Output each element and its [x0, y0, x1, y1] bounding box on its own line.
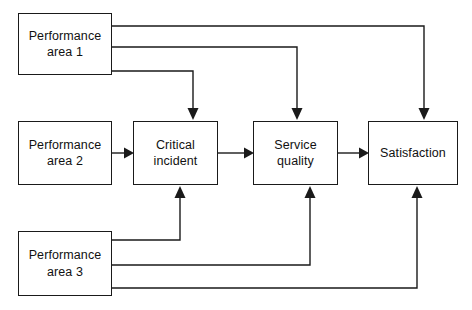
- node-performance-area-2[interactable]: Performance area 2: [18, 121, 112, 185]
- arrowhead-critical-incident-bottom: [175, 186, 186, 198]
- node-performance-area-3[interactable]: Performance area 3: [18, 231, 112, 296]
- edge-pa1-to-critical-incident: [112, 71, 193, 117]
- node-performance-area-1[interactable]: Performance area 1: [18, 13, 112, 75]
- arrowhead-satisfaction-bottom: [412, 186, 423, 198]
- arrowhead-critical-incident-top: [188, 108, 199, 120]
- node-label: Performance area 2: [26, 137, 105, 170]
- node-satisfaction[interactable]: Satisfaction: [368, 121, 458, 185]
- node-label: Performance area 3: [26, 247, 105, 280]
- edge-pa3-to-critical-incident: [112, 189, 180, 240]
- arrowhead-service-quality-top: [292, 108, 303, 120]
- node-label: Service quality: [271, 137, 319, 170]
- node-label: Critical incident: [151, 137, 201, 170]
- node-service-quality[interactable]: Service quality: [253, 121, 338, 185]
- node-label: Satisfaction: [377, 145, 449, 162]
- node-critical-incident[interactable]: Critical incident: [133, 121, 218, 185]
- node-label: Performance area 1: [26, 28, 105, 61]
- arrowhead-satisfaction-top: [419, 108, 430, 120]
- arrowhead-service-quality-bottom: [305, 186, 316, 198]
- edge-pa3-to-satisfaction: [112, 189, 417, 288]
- edge-pa3-to-service-quality: [112, 189, 310, 265]
- edge-pa1-to-service-quality: [112, 47, 297, 117]
- diagram-canvas: Performance area 1 Performance area 2 Pe…: [0, 0, 472, 310]
